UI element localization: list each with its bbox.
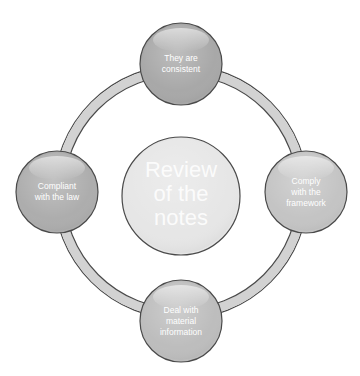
node-label-line: with the — [290, 187, 321, 197]
center-label-line-1: Review — [145, 157, 217, 182]
node-they-are-consistent: They are consistent — [140, 23, 222, 105]
node-deal-with-material-information: Deal with material information — [140, 280, 222, 362]
node-comply-with-framework: Comply with the framework — [265, 151, 347, 233]
center-node: Review of the notes — [122, 137, 240, 255]
node-compliant-with-the-law: Compliant with the law — [16, 151, 98, 233]
node-label-line: with the law — [34, 192, 80, 202]
node-label-line: framework — [286, 198, 326, 208]
node-label-line: consistent — [162, 64, 201, 74]
center-label-line-2: of the — [153, 181, 208, 206]
node-label-line: Comply — [292, 176, 322, 186]
center-label-line-3: notes — [154, 205, 208, 230]
node-label-line: Deal with — [164, 305, 199, 315]
node-label-line: Compliant — [38, 181, 77, 191]
node-label-line: information — [160, 327, 202, 337]
cycle-diagram: Review of the notes They are consistent … — [0, 0, 360, 376]
node-label-line: They are — [164, 53, 198, 63]
node-label-line: material — [166, 316, 196, 326]
